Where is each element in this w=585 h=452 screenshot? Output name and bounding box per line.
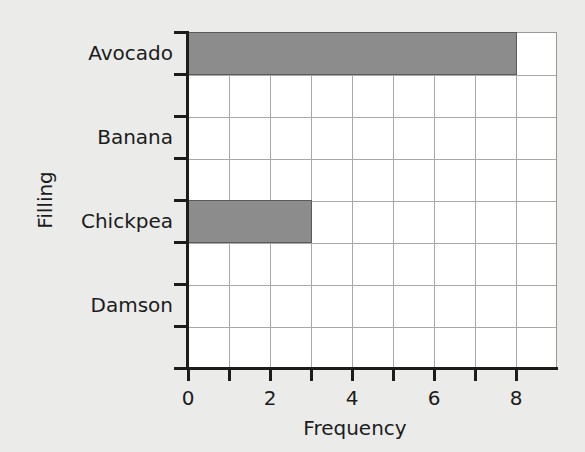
- x-tick-mark: [433, 368, 436, 381]
- x-tick-mark: [474, 368, 477, 381]
- bar-avocado: [188, 32, 517, 75]
- bar-chickpea: [188, 200, 312, 243]
- horizontal-gridline: [188, 117, 556, 118]
- x-tick-label: 8: [501, 386, 531, 410]
- y-category-label: Damson: [91, 293, 173, 317]
- y-tick-mark: [174, 241, 188, 244]
- x-tick-mark: [269, 368, 272, 381]
- x-tick-label: 6: [419, 386, 449, 410]
- y-tick-mark: [174, 199, 188, 202]
- x-axis-line: [174, 367, 558, 370]
- horizontal-gridline: [188, 243, 556, 244]
- x-tick-mark: [351, 368, 354, 381]
- y-tick-mark: [174, 283, 188, 286]
- y-tick-mark: [174, 73, 188, 76]
- x-tick-label: 2: [255, 386, 285, 410]
- x-tick-label: 4: [337, 386, 367, 410]
- bar-chart: Avocado Banana Chickpea Damson 0 2 4 6 8…: [0, 0, 585, 452]
- x-tick-mark: [187, 368, 190, 381]
- y-category-label: Banana: [97, 125, 173, 149]
- horizontal-gridline: [188, 285, 556, 286]
- horizontal-gridline: [188, 75, 556, 76]
- horizontal-gridline: [188, 159, 556, 160]
- y-tick-mark: [174, 31, 188, 34]
- x-tick-mark: [310, 368, 313, 381]
- y-tick-mark: [174, 115, 188, 118]
- y-tick-mark: [174, 157, 188, 160]
- horizontal-gridline: [188, 327, 556, 328]
- plot-area: [188, 32, 557, 368]
- x-tick-mark: [515, 368, 518, 381]
- y-tick-mark: [174, 325, 188, 328]
- y-axis-title: Filling: [33, 171, 57, 229]
- x-tick-mark: [392, 368, 395, 381]
- x-axis-title: Frequency: [303, 416, 406, 440]
- x-tick-label: 0: [173, 386, 203, 410]
- x-tick-mark: [228, 368, 231, 381]
- y-category-label: Avocado: [88, 41, 173, 65]
- y-category-label: Chickpea: [81, 209, 173, 233]
